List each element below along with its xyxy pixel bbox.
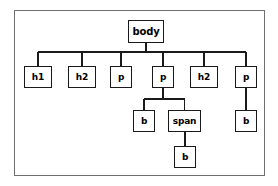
tree-node-label: body [133, 27, 160, 37]
tree-node-label: b [243, 117, 249, 126]
tree-node-b_3: b [174, 146, 196, 168]
tree-node-label: h2 [198, 73, 210, 82]
tree-node-p_2: p [152, 66, 174, 88]
tree-node-p_3: p [235, 66, 257, 88]
tree-node-label: span [173, 117, 196, 126]
tree-node-label: b [141, 117, 147, 126]
dom-tree-diagram: bodyh1h2pph2pbspanbb [0, 0, 278, 186]
tree-node-label: p [243, 73, 249, 82]
tree-node-label: b [182, 153, 188, 162]
tree-node-b_1: b [133, 110, 155, 132]
tree-node-body: body [128, 20, 164, 43]
tree-node-b_2: b [235, 110, 257, 132]
tree-node-label: h1 [32, 73, 44, 82]
tree-node-h1_1: h1 [24, 66, 52, 88]
tree-node-h2_2: h2 [190, 66, 218, 88]
tree-node-label: h2 [76, 73, 88, 82]
tree-node-h2_1: h2 [68, 66, 96, 88]
tree-node-span_1: span [168, 110, 201, 132]
tree-node-p_1: p [110, 66, 132, 88]
tree-node-label: p [160, 73, 166, 82]
tree-node-label: p [118, 73, 124, 82]
